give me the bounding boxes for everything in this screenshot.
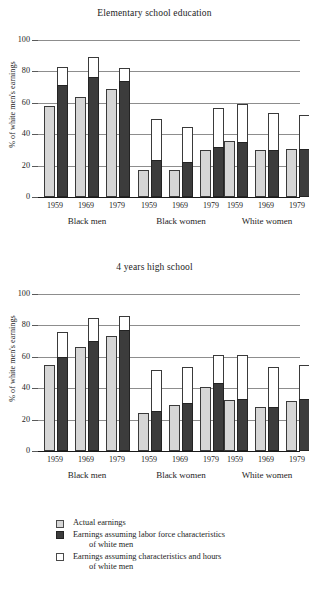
bar-earnings-characteristics-hours	[119, 68, 130, 197]
bar-actual-earnings	[138, 170, 149, 197]
chart-title: 4 years high school	[0, 262, 309, 272]
x-axis-tick-label: 1969	[249, 455, 283, 464]
plot-wrapper: % of white men's earnings 02040608010019…	[0, 276, 309, 504]
x-axis-group-label: Black men	[39, 470, 135, 480]
bar-earnings-labor-force	[268, 407, 279, 451]
x-axis-tick-label: 1969	[163, 455, 197, 464]
bar-actual-earnings	[138, 413, 149, 451]
bar-earnings-characteristics-hours	[151, 119, 162, 197]
chart-title: Elementary school education	[0, 8, 309, 18]
bar-actual-earnings	[169, 405, 180, 451]
x-axis-group-label: Black men	[39, 216, 135, 226]
bar-earnings-characteristics-hours	[88, 318, 99, 451]
gridline	[38, 325, 300, 326]
bar-actual-earnings	[75, 347, 86, 451]
bar-actual-earnings	[255, 150, 266, 197]
legend-swatch-actual	[56, 520, 64, 528]
bar-actual-earnings	[75, 97, 86, 197]
x-axis-group-label: Black women	[133, 470, 229, 480]
bar-actual-earnings	[106, 336, 117, 451]
y-axis-tick-mark	[32, 71, 38, 72]
x-axis-tick-label: 1969	[249, 201, 283, 210]
y-axis-tick-label: 60	[8, 99, 30, 107]
bar-earnings-labor-force	[119, 81, 130, 197]
x-axis-group-label: Black women	[133, 216, 229, 226]
bar-actual-earnings	[106, 89, 117, 197]
gridline	[38, 294, 300, 295]
x-axis-line	[34, 451, 300, 452]
legend-item: Earnings assuming labor force characteri…	[56, 530, 306, 550]
bar-earnings-labor-force	[182, 403, 193, 451]
bar-actual-earnings	[44, 365, 55, 451]
plot-area: 020406080100195919691979Black men1959196…	[38, 40, 300, 197]
x-axis-tick-label: 1959	[132, 201, 166, 210]
x-axis-tick-label: 1969	[163, 201, 197, 210]
figure-page: Elementary school education % of white m…	[0, 0, 309, 597]
legend-item: Actual earnings	[56, 518, 306, 528]
x-axis-tick-label: 1969	[69, 455, 103, 464]
x-axis-tick-label: 1959	[38, 455, 72, 464]
bar-earnings-characteristics-hours	[299, 115, 309, 197]
x-axis-group-label: White women	[219, 470, 309, 480]
plot-wrapper: % of white men's earnings 02040608010019…	[0, 22, 309, 250]
x-axis-tick-label: 1959	[132, 455, 166, 464]
bar-earnings-labor-force	[57, 85, 68, 196]
chart-panel-highschool: 4 years high school % of white men's ear…	[0, 262, 309, 505]
bar-earnings-characteristics-hours	[237, 355, 248, 451]
y-axis-tick-mark	[32, 166, 38, 167]
bar-earnings-labor-force	[213, 383, 224, 451]
y-axis-tick-mark	[32, 40, 38, 41]
y-axis-tick-label: 60	[8, 353, 30, 361]
y-axis-tick-label: 40	[8, 130, 30, 138]
bar-actual-earnings	[169, 170, 180, 197]
y-axis-tick-label: 0	[8, 193, 30, 201]
bar-earnings-characteristics-hours	[57, 67, 68, 197]
y-axis-tick-label: 20	[8, 162, 30, 170]
legend-item-label: Actual earnings	[73, 518, 126, 527]
bar-earnings-labor-force	[299, 399, 309, 451]
bar-earnings-labor-force	[151, 411, 162, 451]
legend-item-label-continuation: of white men	[73, 562, 306, 572]
bar-actual-earnings	[286, 401, 297, 451]
bar-earnings-characteristics-hours	[182, 127, 193, 197]
bar-earnings-labor-force	[88, 77, 99, 196]
bar-earnings-labor-force	[213, 147, 224, 197]
legend-item-label: Earnings assuming labor force characteri…	[73, 530, 225, 539]
chart-panel-elementary: Elementary school education % of white m…	[0, 8, 309, 251]
bar-earnings-labor-force	[299, 149, 309, 197]
bar-earnings-characteristics-hours	[299, 365, 309, 451]
y-axis-tick-mark	[32, 388, 38, 389]
bar-earnings-labor-force	[119, 330, 130, 451]
bar-earnings-characteristics-hours	[268, 113, 279, 197]
bar-actual-earnings	[44, 106, 55, 197]
bar-actual-earnings	[255, 407, 266, 451]
x-axis-tick-label: 1959	[218, 455, 252, 464]
bar-earnings-labor-force	[151, 160, 162, 197]
plot-area: 020406080100195919691979Black men1959196…	[38, 294, 300, 451]
bar-actual-earnings	[286, 149, 297, 197]
y-axis-tick-mark	[32, 420, 38, 421]
x-axis-group-label: White women	[219, 216, 309, 226]
x-axis-tick-label: 1979	[100, 201, 134, 210]
bar-earnings-characteristics-hours	[213, 355, 224, 451]
y-axis-tick-mark	[32, 294, 38, 295]
y-axis-tick-mark	[32, 357, 38, 358]
bar-actual-earnings	[224, 141, 235, 197]
bar-earnings-characteristics-hours	[57, 332, 68, 451]
bar-earnings-characteristics-hours	[119, 316, 130, 451]
bar-earnings-labor-force	[237, 399, 248, 451]
y-axis-tick-mark	[32, 134, 38, 135]
y-axis-tick-label: 80	[8, 321, 30, 329]
gridline	[38, 71, 300, 72]
y-axis-tick-mark	[32, 325, 38, 326]
x-axis-tick-label: 1979	[280, 201, 309, 210]
y-axis-tick-label: 0	[8, 447, 30, 455]
legend-item: Earnings assuming characteristics and ho…	[56, 552, 306, 572]
bar-earnings-characteristics-hours	[268, 367, 279, 451]
y-axis-tick-label: 100	[8, 290, 30, 298]
x-axis-tick-label: 1979	[100, 455, 134, 464]
gridline	[38, 40, 300, 41]
y-axis-tick-label: 80	[8, 67, 30, 75]
bar-actual-earnings	[200, 387, 211, 451]
legend-swatch-hours	[56, 553, 64, 561]
